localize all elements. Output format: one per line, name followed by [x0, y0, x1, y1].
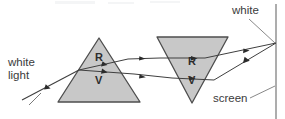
- white-light-label-line1: white: [8, 56, 35, 69]
- prism-two-red-label: R: [188, 55, 196, 67]
- screen-label-leader: [250, 86, 275, 98]
- figure-canvas: white light white screen R V R V: [0, 0, 285, 119]
- screen-label: screen: [213, 92, 248, 105]
- prism-two-violet-label: V: [188, 74, 195, 86]
- prism-one: [58, 38, 140, 102]
- scan-artifact: [55, 1, 180, 4]
- prism-one-violet-label: V: [95, 74, 102, 86]
- white-light-label: white light: [8, 56, 35, 82]
- red-ray-arrowhead-gap: [139, 56, 146, 60]
- white-label-leader: [249, 19, 275, 43]
- prism-one-red-label: R: [95, 51, 103, 63]
- white-label: white: [232, 4, 259, 17]
- white-light-label-line2: light: [8, 69, 35, 82]
- violet-ray-arrowhead-screen: [243, 57, 250, 64]
